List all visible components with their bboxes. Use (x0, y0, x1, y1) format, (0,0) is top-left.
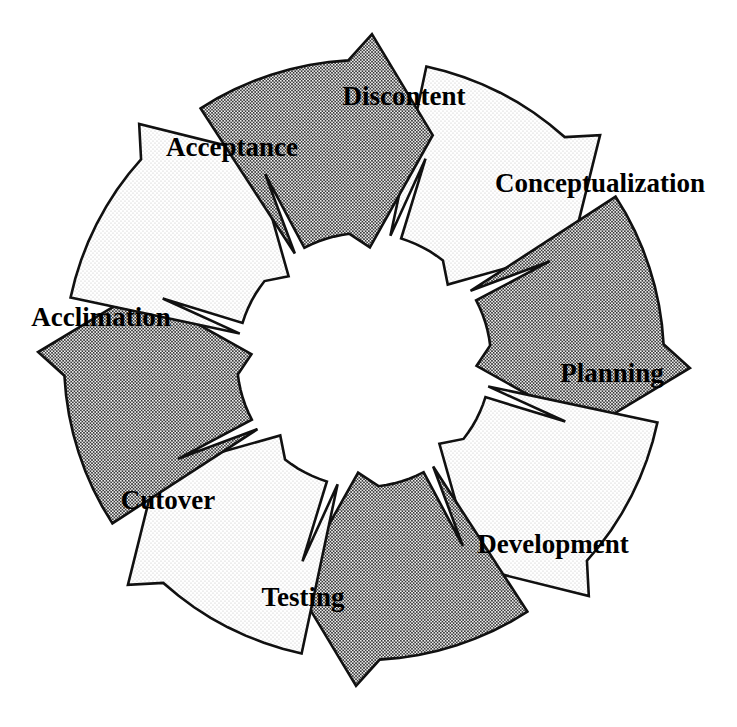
segment-label-development: Development (477, 529, 628, 559)
segment-label-cutover: Cutover (121, 485, 215, 515)
cycle-diagram: DiscontentConceptualizationPlanningDevel… (0, 0, 737, 727)
segment-label-conceptualization: Conceptualization (495, 168, 705, 198)
segment-label-planning: Planning (560, 358, 664, 388)
segment-label-discontent: Discontent (343, 81, 466, 111)
segment-label-acclimation: Acclimation (31, 302, 170, 332)
cycle-diagram-canvas: DiscontentConceptualizationPlanningDevel… (0, 0, 737, 727)
segment-label-testing: Testing (261, 582, 345, 612)
segment-label-acceptance: Acceptance (166, 132, 298, 162)
